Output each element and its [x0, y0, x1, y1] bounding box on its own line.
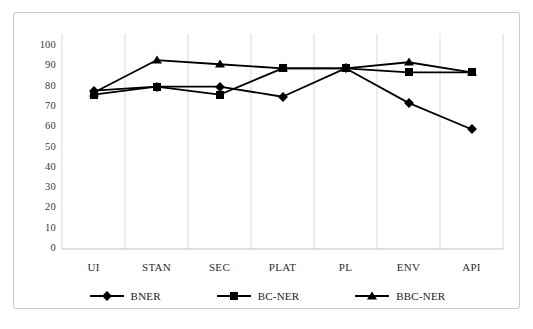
legend-label: BNER: [131, 290, 161, 302]
legend-marker-diamond-icon: [90, 290, 124, 302]
chart-figure: 0102030405060708090100 UISTANSECPLATPLEN…: [13, 12, 520, 309]
data-point-marker-square: [153, 83, 161, 91]
data-point-marker-square: [405, 68, 413, 76]
data-point-marker-triangle: [215, 60, 225, 68]
data-point-marker-square: [216, 91, 224, 99]
legend-marker-triangle-icon: [355, 290, 389, 302]
data-point-marker-triangle: [404, 58, 414, 66]
y-axis-tick-label: 90: [20, 59, 56, 70]
legend-entry-bbc-ner[interactable]: BBC-NER: [355, 290, 445, 302]
data-point-marker-triangle: [341, 64, 351, 72]
y-axis-tick-label: 50: [20, 141, 56, 152]
legend-label: BBC-NER: [396, 290, 445, 302]
y-axis-tick-label: 60: [20, 120, 56, 131]
legend-label: BC-NER: [258, 290, 300, 302]
data-point-marker-triangle: [89, 88, 99, 96]
chart-legend: BNERBC-NERBBC-NER: [14, 286, 521, 306]
data-point-marker-triangle: [278, 64, 288, 72]
y-axis-tick-label: 0: [20, 242, 56, 253]
data-point-marker-triangle: [467, 68, 477, 76]
y-axis-tick-label: 10: [20, 222, 56, 233]
y-axis-tick-label: 30: [20, 181, 56, 192]
data-point-marker-triangle: [152, 56, 162, 64]
legend-entry-bc-ner[interactable]: BC-NER: [217, 290, 300, 302]
legend-marker-square-icon: [217, 290, 251, 302]
y-axis-tick-label: 20: [20, 201, 56, 212]
y-axis-tick-label: 70: [20, 100, 56, 111]
x-axis-category-label-api: API: [432, 261, 512, 273]
y-axis-tick-label: 100: [20, 39, 56, 50]
y-axis-tick-label: 80: [20, 80, 56, 91]
y-axis-tick-label: 40: [20, 161, 56, 172]
legend-entry-bner[interactable]: BNER: [90, 290, 161, 302]
